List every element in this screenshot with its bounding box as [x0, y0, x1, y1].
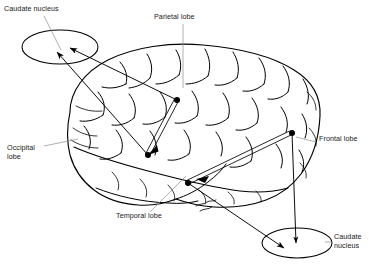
label-caudate-nucleus-top: Caudate nucleus: [4, 4, 59, 13]
label-occipital-lobe-line1: Occipital: [7, 143, 35, 152]
temporal-node-dot: [185, 180, 191, 186]
diagram-canvas: [0, 0, 369, 273]
arrow-frontal-to-caudate: [292, 133, 296, 243]
brain-lobe-caudate-diagram: Caudate nucleus Parietal lobe Frontal lo…: [0, 0, 369, 273]
label-caudate-nucleus-bottom-line1: Caudate: [334, 232, 362, 241]
label-frontal-lobe: Frontal lobe: [319, 134, 358, 143]
label-caudate-nucleus-bottom-line2: nucleus: [334, 241, 359, 250]
brain-outline-group: [68, 44, 320, 207]
cortico-striatal-tracts: [146, 99, 292, 185]
frontal-node-dot: [289, 130, 295, 136]
label-temporal-lobe: Temporal lobe: [116, 211, 162, 220]
leader-temporal-lobe: [150, 176, 186, 212]
leader-frontal-lobe: [296, 137, 316, 142]
temporal-pole-curve: [176, 164, 226, 199]
sylvian-fissure: [74, 147, 288, 192]
occipital-node-dot: [145, 152, 151, 158]
leader-occipital-lobe: [44, 139, 78, 146]
caudate-nucleus-lower-right-ellipse: [262, 228, 332, 258]
parietal-node-dot: [174, 97, 180, 103]
label-occipital-lobe-line2: lobe: [7, 152, 21, 161]
arrow-parietal-to-caudate: [70, 48, 177, 100]
tract-arrowhead-temporal: [196, 176, 209, 183]
arrow-temporal-to-caudate: [188, 183, 284, 248]
caudate-nucleus-upper-left-ellipse: [22, 30, 98, 64]
leader-caudate-nucleus-top: [44, 16, 61, 50]
label-parietal-lobe: Parietal lobe: [154, 12, 195, 21]
